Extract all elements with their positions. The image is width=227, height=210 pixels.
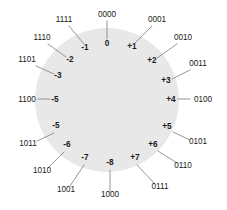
binary-label-neg-8: 1000 (101, 190, 120, 199)
decimal-label-pos-4: +4 (166, 95, 176, 104)
decimal-label-pos-6: +6 (148, 140, 158, 149)
binary-label-pos-4: 0100 (194, 95, 213, 104)
decimal-label-neg-6: -6 (63, 140, 71, 149)
binary-label-neg-5b: 1011 (19, 139, 37, 148)
binary-label-pos-7: 0111 (152, 182, 169, 191)
leader-line (173, 132, 190, 140)
binary-label-neg-5a: 1100 (18, 95, 36, 104)
decimal-label-pos-3: +3 (161, 76, 171, 85)
binary-label-pos-6: 0110 (174, 161, 192, 170)
binary-label-neg-2: 1110 (34, 33, 51, 42)
decimal-label-neg-3: -3 (54, 71, 62, 80)
decimal-label-pos-5: +5 (162, 122, 172, 131)
binary-label-neg-1: 1111 (56, 15, 73, 24)
leader-line (172, 70, 190, 79)
binary-label-neg-6: 1010 (33, 166, 52, 175)
binary-label-pos-1: 0001 (148, 15, 167, 24)
decimal-label-neg-8: -8 (106, 158, 114, 167)
decimal-label-pos-0: 0 (105, 39, 110, 48)
leader-line (157, 44, 177, 58)
decimal-label-pos-2: +2 (147, 56, 157, 65)
binary-label-pos-3: 0011 (189, 59, 207, 68)
decimal-label-pos-7: +7 (130, 153, 140, 162)
binary-label-pos-5: 0101 (189, 137, 208, 146)
binary-label-neg-3: 1101 (18, 55, 36, 64)
decimal-label-neg-1: -1 (81, 43, 89, 52)
binary-label-neg-7: 1001 (57, 185, 76, 194)
binary-label-pos-0: 0000 (98, 10, 117, 19)
number-circle-diagram: 0+1+2+3+4+5+6+7-8-7-6-5-5-3-2-1 00000001… (0, 0, 227, 210)
binary-label-pos-2: 0010 (174, 33, 193, 42)
number-circle-canvas: 0+1+2+3+4+5+6+7-8-7-6-5-5-3-2-1 00000001… (0, 0, 227, 210)
decimal-label-neg-5a: -5 (51, 95, 59, 104)
leader-line (70, 165, 84, 186)
decimal-label-pos-1: +1 (127, 42, 137, 51)
decimal-label-neg-5b: -5 (52, 121, 60, 130)
decimal-label-neg-2: -2 (66, 55, 74, 64)
decimal-label-neg-7: -7 (81, 153, 89, 162)
